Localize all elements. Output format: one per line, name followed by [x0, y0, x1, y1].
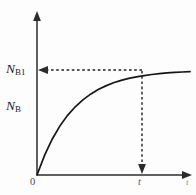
saturation-guide: [38, 66, 142, 74]
time-marker-guide: [138, 71, 146, 174]
x-point-label: t: [138, 177, 141, 188]
x-axis-label: t: [186, 178, 189, 187]
origin-label: 0: [30, 177, 35, 188]
saturation-curve-figure: NB1 NB 0 t t: [0, 0, 196, 195]
y-axis: [33, 11, 41, 175]
x-axis: [37, 171, 192, 179]
y-axis-arrow-icon: [33, 11, 41, 21]
saturation-curve: [37, 72, 190, 175]
time-marker-arrow-icon: [138, 164, 146, 174]
y-axis-label: NB: [6, 99, 21, 113]
saturation-arrow-icon: [38, 66, 48, 74]
y-saturation-label: NB1: [6, 62, 25, 76]
plot-canvas: [0, 0, 196, 195]
